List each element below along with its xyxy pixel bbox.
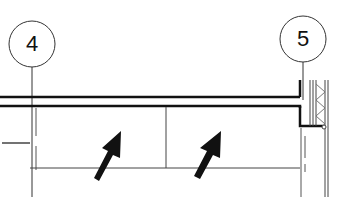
lower-wall	[36, 108, 305, 197]
grid-label-4: 4	[12, 24, 52, 64]
slab-edge	[0, 80, 300, 108]
floor-panels	[2, 107, 300, 168]
exterior-wall	[310, 80, 328, 197]
arrow-right-icon	[194, 131, 221, 179]
arrow-left-icon	[94, 131, 121, 181]
grid-label-5: 5	[283, 19, 323, 59]
